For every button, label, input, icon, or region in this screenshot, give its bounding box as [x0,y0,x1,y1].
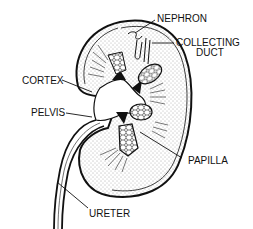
label-pelvis: PELVIS [31,108,65,118]
pelvis-leader [66,113,92,117]
label-ureter: URETER [89,209,130,219]
kidney-diagram: NEPHRON COLLECTING DUCT CORTEX PELVIS PA… [0,0,253,229]
label-collecting-duct-line2: DUCT [196,48,224,58]
ureter-leader [57,182,88,208]
label-papilla: PAPILLA [188,156,228,166]
label-cortex: CORTEX [22,76,64,86]
label-nephron: NEPHRON [157,14,207,24]
